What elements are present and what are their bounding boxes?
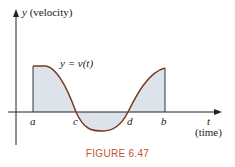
point-b: b <box>161 115 167 127</box>
point-c: c <box>73 115 78 127</box>
figure-caption: FIGURE 6.47 <box>0 148 235 159</box>
x-axis-arrow <box>214 109 222 115</box>
velocity-graph <box>0 0 235 167</box>
figure: y (velocity) y = v(t) a c d b t (time) F… <box>0 0 235 167</box>
x-axis-desc: (time) <box>195 126 222 138</box>
y-axis-arrow <box>13 9 19 17</box>
shaded-area <box>33 66 165 131</box>
curve-label: y = v(t) <box>60 57 93 69</box>
point-a: a <box>30 115 36 127</box>
y-axis-label: y (velocity) <box>22 6 72 18</box>
point-d: d <box>127 115 133 127</box>
